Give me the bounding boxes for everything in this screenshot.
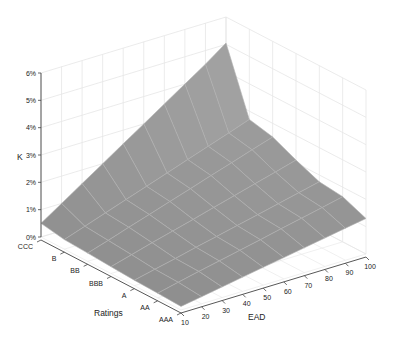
ead-tick-label: 10 xyxy=(181,319,189,326)
ead-tick-label: 80 xyxy=(325,275,333,282)
y-axis-title: Ratings xyxy=(94,308,123,318)
z-tick-label: 4% xyxy=(26,124,36,131)
ratings-tick xyxy=(130,289,134,291)
ead-tick-label: 30 xyxy=(222,307,230,314)
ead-tick-label: 90 xyxy=(346,269,354,276)
ead-tick-label: 60 xyxy=(284,288,292,295)
ead-tick xyxy=(202,307,205,310)
ead-tick xyxy=(366,257,369,260)
ratings-tick xyxy=(60,252,64,254)
ratings-tick-label: AA xyxy=(140,304,150,311)
ead-tick xyxy=(222,301,225,304)
ead-tick xyxy=(304,276,307,279)
ead-tick xyxy=(263,288,266,291)
z-tick-label: 1% xyxy=(26,206,36,213)
z-axis-title: K xyxy=(17,152,23,162)
ead-tick-label: 50 xyxy=(263,294,271,301)
ratings-tick-label: CCC xyxy=(18,243,33,250)
ratings-tick-label: A xyxy=(122,292,127,299)
ead-tick xyxy=(284,282,287,285)
ead-tick xyxy=(243,294,246,297)
k-surface-chart: 0%1%2%3%4%5%6%CCCBBBBBBAAAAAA10203040506… xyxy=(0,0,396,339)
ratings-tick-label: BBB xyxy=(89,280,103,287)
ead-tick xyxy=(181,313,184,316)
z-tick-label: 0% xyxy=(26,234,36,241)
ratings-tick xyxy=(37,240,41,242)
surface-plot: 0%1%2%3%4%5%6%CCCBBBBBBAAAAAA10203040506… xyxy=(0,0,396,339)
ead-tick-label: 40 xyxy=(243,300,251,307)
ratings-tick xyxy=(107,277,111,279)
surface-mesh xyxy=(41,43,366,306)
ead-tick-label: 20 xyxy=(202,313,210,320)
x-axis-title: EAD xyxy=(248,312,265,322)
ratings-tick-label: B xyxy=(52,255,57,262)
ratings-tick xyxy=(177,313,181,315)
ead-tick xyxy=(345,263,348,266)
ratings-tick-label: AAA xyxy=(159,316,173,323)
ratings-tick-label: BB xyxy=(70,267,80,274)
ratings-tick xyxy=(84,264,88,266)
ead-tick-label: 70 xyxy=(304,282,312,289)
ead-tick xyxy=(325,269,328,272)
z-tick-label: 2% xyxy=(26,179,36,186)
ratings-tick xyxy=(154,301,158,303)
z-tick-label: 3% xyxy=(26,152,36,159)
z-tick-label: 6% xyxy=(26,70,36,77)
z-tick-label: 5% xyxy=(26,97,36,104)
ead-tick-label: 100 xyxy=(364,263,376,270)
